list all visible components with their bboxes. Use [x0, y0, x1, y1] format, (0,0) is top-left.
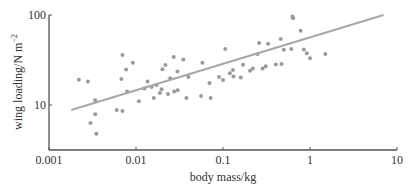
data-point — [163, 63, 167, 67]
y-tick-label: 100 — [28, 8, 46, 22]
data-point — [137, 99, 141, 103]
scatter-chart: 10100 0.0010.010.1110 body mass/kg wing … — [0, 0, 415, 191]
y-tick-label: 10 — [34, 98, 46, 112]
data-point — [160, 67, 164, 71]
data-point — [172, 55, 176, 59]
y-axis-label: wing loading/N m−2 — [10, 34, 25, 130]
data-point — [239, 76, 243, 80]
data-point — [160, 87, 164, 91]
data-point — [208, 81, 212, 85]
x-axis-label: body mass/kg — [190, 170, 256, 184]
data-point — [291, 16, 295, 20]
data-point — [241, 63, 245, 67]
regression-line — [71, 15, 383, 110]
data-point — [152, 96, 156, 100]
data-point — [221, 78, 225, 82]
x-tick-label: 0.01 — [126, 153, 147, 167]
data-point — [280, 62, 284, 66]
data-point — [176, 69, 180, 73]
data-point — [199, 94, 203, 98]
data-point — [228, 71, 232, 75]
data-point — [172, 90, 176, 94]
data-point — [146, 80, 150, 84]
data-point — [184, 96, 188, 100]
data-point — [121, 53, 125, 57]
y-axis-label-text: wing loading/N m — [11, 42, 25, 130]
data-point — [274, 63, 278, 67]
data-point — [124, 68, 128, 72]
data-point — [119, 77, 123, 81]
data-point — [289, 47, 293, 51]
data-point — [121, 109, 125, 113]
x-tick-label: 1 — [307, 153, 313, 167]
data-points — [77, 15, 327, 136]
data-point — [232, 74, 236, 78]
data-point — [77, 78, 81, 82]
data-point — [94, 132, 98, 136]
y-axis-label-superscript: −2 — [10, 34, 19, 43]
data-point — [264, 64, 268, 68]
data-point — [305, 51, 309, 55]
data-point — [181, 58, 185, 62]
data-point — [131, 61, 135, 65]
data-point — [308, 56, 312, 60]
data-point — [176, 88, 180, 92]
x-tick-label: 0.001 — [36, 153, 63, 167]
data-point — [282, 48, 286, 52]
data-point — [158, 91, 162, 95]
data-point — [279, 37, 283, 41]
data-point — [266, 42, 270, 46]
data-point — [166, 92, 170, 96]
data-point — [200, 61, 204, 65]
x-tick-label: 0.1 — [216, 153, 231, 167]
data-point — [323, 52, 327, 56]
x-tick-label: 10 — [391, 153, 403, 167]
data-point — [223, 47, 227, 51]
data-point — [231, 68, 235, 72]
data-point — [93, 112, 97, 116]
data-point — [86, 80, 90, 84]
data-point — [302, 47, 306, 51]
data-point — [217, 75, 221, 79]
data-point — [209, 96, 213, 100]
data-point — [115, 108, 119, 112]
data-point — [299, 29, 303, 33]
data-point — [251, 66, 255, 70]
data-point — [257, 41, 261, 45]
data-point — [89, 121, 93, 125]
